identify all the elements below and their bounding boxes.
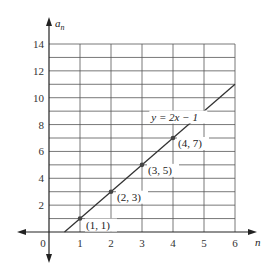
point-label: (4, 7) [178,137,202,150]
x-tick-label: 5 [201,237,207,249]
data-points: (1, 1)(2, 3)(3, 5)(4, 7) [78,136,209,232]
x-axis-label: n [255,236,261,248]
y-tick-label: 6 [39,145,45,157]
x-tick-label: 6 [232,237,238,249]
y-axis-label: an [55,17,65,32]
x-tick-label: 0 [40,237,46,249]
y-axis-label-subscript: n [61,23,65,32]
point-label: (1, 1) [86,219,110,232]
x-axis-left-arrow [17,229,26,235]
data-point [171,136,176,141]
series-line [65,84,236,232]
y-tick-label: 14 [33,38,45,50]
y-tick-label: 8 [39,119,45,131]
data-point [140,163,145,168]
y-tick-label: 10 [33,92,45,104]
x-tick-label: 1 [77,237,83,249]
data-point [109,189,114,194]
axes [17,17,257,263]
point-label: (3, 5) [148,164,172,177]
x-axis-right-arrow [248,229,257,235]
x-tick-label: 2 [108,237,114,249]
chart: 01234562468101214 (1, 1)(2, 3)(3, 5)(4, … [0,0,275,277]
data-point [78,216,83,221]
equation-annotation: y = 2x − 1 [150,111,198,123]
y-tick-label: 2 [39,199,45,211]
y-tick-label: 12 [33,65,44,77]
y-tick-label: 4 [39,172,45,184]
point-label: (2, 3) [117,191,141,204]
series-lines [65,84,236,232]
y-axis-bottom-arrow [46,254,52,263]
x-tick-label: 4 [170,237,176,249]
y-axis-top-arrow [46,17,52,26]
x-tick-label: 3 [139,237,145,249]
